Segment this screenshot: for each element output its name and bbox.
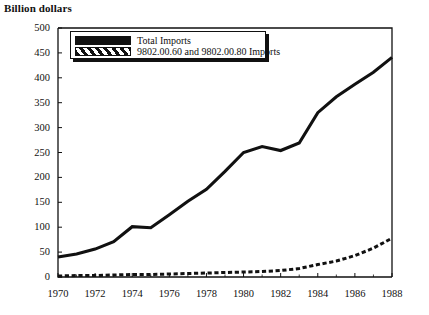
- y-tick-label: 400: [10, 73, 50, 84]
- y-tick-label: 50: [10, 247, 50, 258]
- x-tick-label: 1988: [372, 289, 412, 300]
- x-tick-label: 1980: [224, 289, 264, 300]
- series-line-0: [58, 57, 392, 257]
- axis-frame: [58, 28, 392, 277]
- x-tick-label: 1970: [38, 289, 78, 300]
- x-tick-label: 1978: [186, 289, 226, 300]
- y-tick-label: 0: [10, 272, 50, 283]
- y-tick-label: 300: [10, 123, 50, 134]
- legend-label-total-imports: Total Imports: [137, 36, 191, 46]
- data-series-group: [58, 57, 392, 276]
- y-tick-label: 500: [10, 23, 50, 34]
- x-tick-label: 1972: [75, 289, 115, 300]
- x-tick-label: 1974: [112, 289, 152, 300]
- y-tick-label: 200: [10, 172, 50, 183]
- legend-entry-total-imports: Total Imports: [75, 35, 191, 46]
- y-tick-label: 350: [10, 98, 50, 109]
- x-tick-label: 1982: [261, 289, 301, 300]
- chart-legend: Total Imports 9802.00.60 and 9802.00.80 …: [70, 31, 266, 59]
- y-tick-label: 100: [10, 222, 50, 233]
- legend-swatch-solid: [75, 36, 131, 45]
- chart-figure: Billion dollars 500450400350300250200150…: [0, 0, 429, 315]
- axis-ticks: [58, 28, 392, 277]
- y-tick-label: 450: [10, 48, 50, 59]
- y-tick-label: 150: [10, 197, 50, 208]
- x-tick-label: 1976: [149, 289, 189, 300]
- legend-label-9802-imports: 9802.00.60 and 9802.00.80 Imports: [137, 47, 280, 57]
- legend-swatch-hatched: [75, 47, 131, 56]
- x-tick-label: 1984: [298, 289, 338, 300]
- legend-entry-9802-imports: 9802.00.60 and 9802.00.80 Imports: [75, 46, 280, 57]
- y-tick-label: 250: [10, 148, 50, 159]
- x-tick-label: 1986: [335, 289, 375, 300]
